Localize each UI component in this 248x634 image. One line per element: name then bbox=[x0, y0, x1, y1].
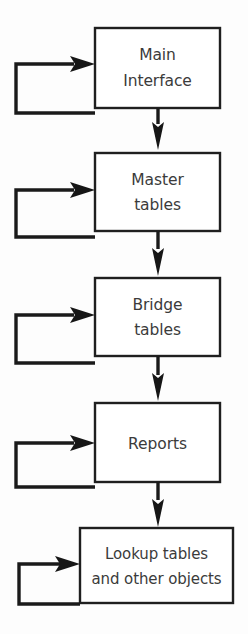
node-label-master-tables-line2: tables bbox=[134, 196, 181, 214]
connector-bridge-tables-to-reports bbox=[152, 356, 164, 401]
node-label-bridge-tables-line2: tables bbox=[134, 321, 181, 339]
node-label-main-interface-line2: Interface bbox=[123, 72, 192, 90]
node-reports[interactable]: Reports bbox=[95, 403, 220, 482]
arrow-head-down-lookup-tables bbox=[152, 499, 164, 527]
arrow-head-down-bridge-tables bbox=[152, 248, 164, 276]
feedback-loop-bridge-tables bbox=[16, 307, 95, 363]
flowchart-canvas: Main Interface Master tables bbox=[0, 0, 248, 634]
node-label-main-interface-line1: Main bbox=[139, 46, 176, 64]
node-label-bridge-tables-line1: Bridge bbox=[133, 296, 183, 314]
feedback-loop-reports bbox=[16, 435, 95, 487]
node-label-lookup-tables-line2: and other objects bbox=[91, 570, 221, 588]
flowchart-diagram: Main Interface Master tables bbox=[0, 0, 248, 634]
node-lookup-tables-and-other-objects[interactable]: Lookup tables and other objects bbox=[80, 528, 233, 603]
node-box-bridge-tables bbox=[95, 278, 220, 356]
node-box-master-tables bbox=[95, 153, 220, 231]
node-label-reports-line1: Reports bbox=[128, 435, 187, 453]
arrow-head-down-master-tables bbox=[152, 122, 164, 150]
feedback-loop-main-interface bbox=[16, 56, 95, 113]
node-master-tables[interactable]: Master tables bbox=[95, 153, 220, 231]
connector-reports-to-lookup-tables bbox=[152, 482, 164, 527]
connector-main-interface-to-master-tables bbox=[152, 108, 164, 150]
node-box-lookup-tables-and-other-objects bbox=[80, 528, 233, 603]
node-label-lookup-tables-line1: Lookup tables bbox=[105, 545, 208, 563]
node-box-main-interface bbox=[95, 28, 220, 108]
arrow-head-down-reports bbox=[152, 373, 164, 401]
feedback-loop-master-tables bbox=[16, 182, 95, 237]
node-main-interface[interactable]: Main Interface bbox=[95, 28, 220, 108]
node-label-master-tables-line1: Master bbox=[131, 171, 184, 189]
node-bridge-tables[interactable]: Bridge tables bbox=[95, 278, 220, 356]
connector-master-tables-to-bridge-tables bbox=[152, 231, 164, 276]
feedback-loop-lookup-tables-and-other-objects bbox=[19, 556, 80, 604]
